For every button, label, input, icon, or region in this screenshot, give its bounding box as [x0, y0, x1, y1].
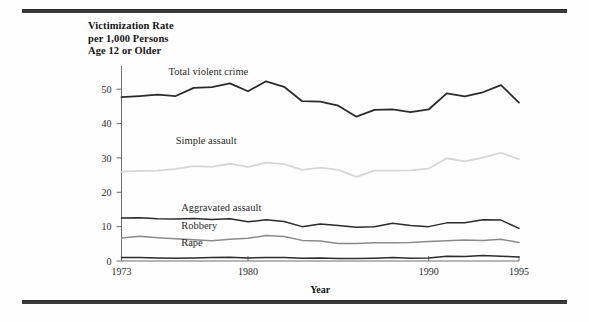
series-label-simple-assault: Simple assault	[176, 135, 237, 146]
series-label-aggravated-assault: Aggravated assault	[181, 202, 261, 213]
y-tick-label: 20	[102, 187, 112, 198]
series-label-rape: Rape	[181, 237, 203, 248]
x-axis-title: Year	[310, 284, 331, 295]
series-label-total-violent-crime: Total violent crime	[168, 66, 248, 77]
y-tick-label: 10	[102, 221, 112, 232]
y-tick-label: 40	[102, 118, 112, 129]
figure-page: Victimization Rate per 1,000 Persons Age…	[0, 0, 589, 322]
line-chart: 010203040501973198019901995YearTotal vio…	[0, 0, 589, 322]
x-tick-label: 1990	[419, 266, 439, 277]
series-label-robbery: Robbery	[181, 220, 218, 231]
series-line-total-violent-crime	[122, 81, 520, 116]
x-tick-label: 1995	[509, 266, 529, 277]
x-tick-label: 1980	[238, 266, 258, 277]
series-line-simple-assault	[122, 153, 520, 177]
chart-canvas: 010203040501973198019901995YearTotal vio…	[0, 0, 589, 322]
y-tick-label: 30	[102, 153, 112, 164]
y-tick-label: 50	[102, 84, 112, 95]
x-tick-label: 1973	[112, 266, 132, 277]
series-line-rape	[122, 256, 520, 259]
y-tick-label: 0	[107, 256, 112, 267]
